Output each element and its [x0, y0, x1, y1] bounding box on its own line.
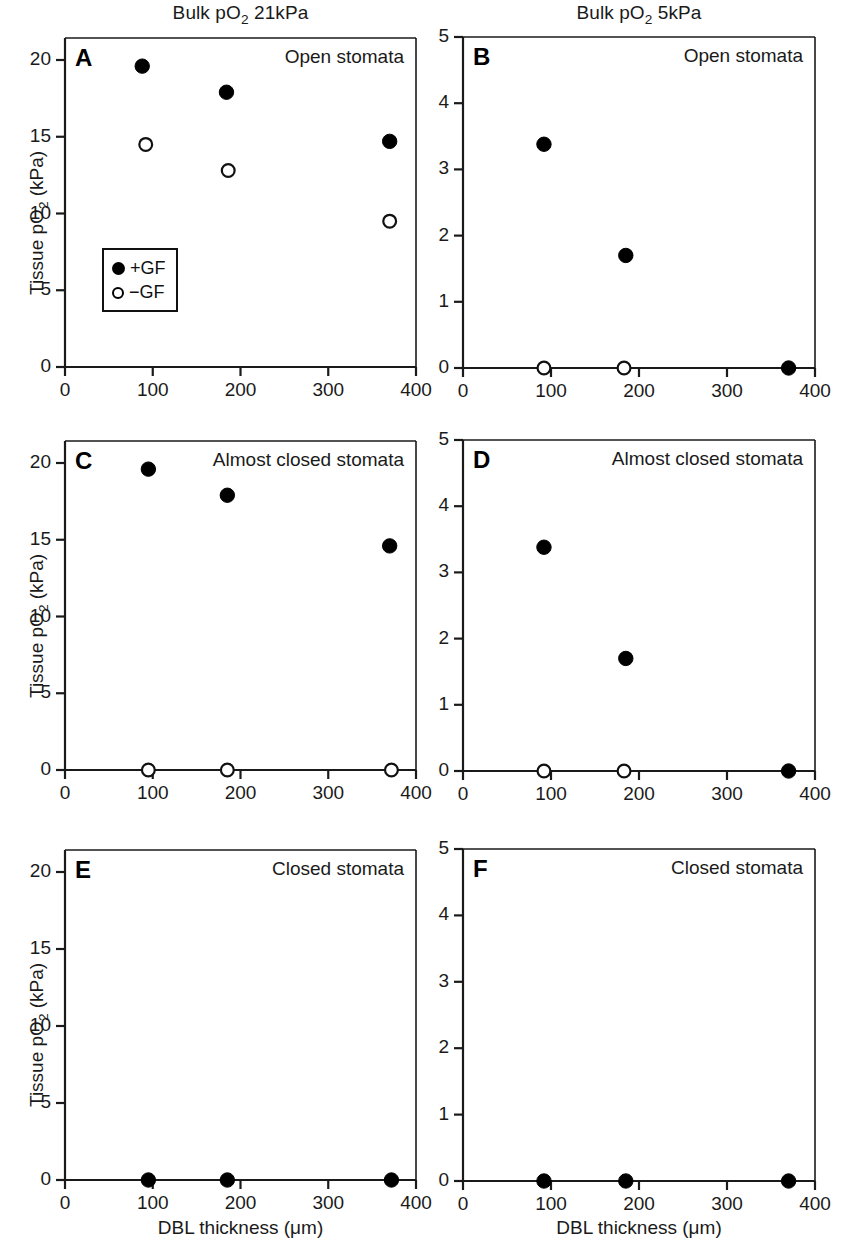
- x-tick-label-f-300: 300: [687, 1193, 767, 1215]
- legend-entry-+gf: +GF: [112, 258, 166, 279]
- data-point-filled: [537, 1174, 551, 1188]
- legend-entry-gf: −GF: [112, 282, 165, 303]
- y-tick-label-f-1: 1: [397, 1103, 449, 1125]
- panel-f-plot-area: [0, 0, 844, 1251]
- x-tick-label-f-100: 100: [511, 1193, 591, 1215]
- figure-root: Bulk pO2 21kPa Bulk pO2 5kPa AOpen stoma…: [0, 0, 844, 1251]
- x-axis-title-right-text: DBL thickness (μm): [556, 1217, 721, 1238]
- y-tick-label-f-2: 2: [397, 1036, 449, 1058]
- filled-circle-icon: [112, 262, 125, 275]
- x-axis-title-left: DBL thickness (μm): [65, 1217, 416, 1239]
- y-tick-label-f-5: 5: [397, 837, 449, 859]
- x-axis-title-right: DBL thickness (μm): [463, 1217, 815, 1239]
- panel-letter-f: F: [473, 855, 488, 883]
- x-tick-label-f-0: 0: [423, 1193, 503, 1215]
- y-tick-label-f-3: 3: [397, 970, 449, 992]
- data-point-filled: [619, 1174, 633, 1188]
- legend-box: +GF−GF: [102, 248, 178, 312]
- x-tick-label-f-400: 400: [775, 1193, 844, 1215]
- panel-caption-f: Closed stomata: [493, 857, 803, 879]
- legend-label: +GF: [130, 258, 166, 279]
- x-axis-title-left-text: DBL thickness (μm): [158, 1217, 323, 1238]
- open-circle-icon: [112, 287, 124, 299]
- data-point-filled: [781, 1174, 795, 1188]
- y-tick-label-f-0: 0: [397, 1169, 449, 1191]
- legend-label: −GF: [129, 282, 165, 303]
- y-tick-label-f-4: 4: [397, 903, 449, 925]
- x-tick-label-f-200: 200: [599, 1193, 679, 1215]
